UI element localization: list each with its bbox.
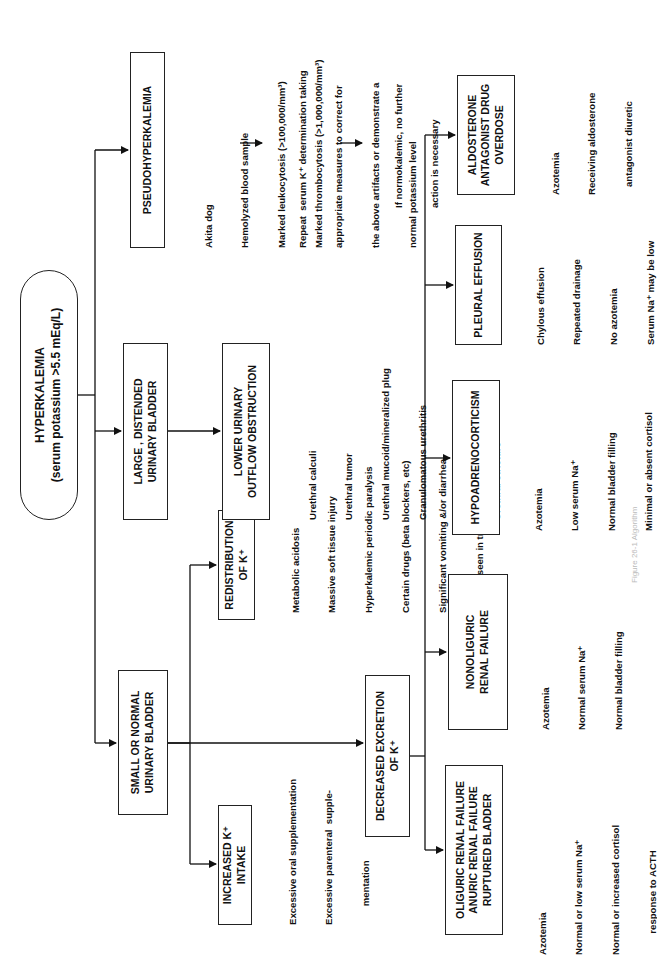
note-line: If normokalemic, no further [393, 84, 405, 208]
cause-item: Urethral mucoid/mineralized plug [380, 368, 392, 520]
label-line: OF K⁺ [388, 740, 402, 771]
label-line: URINARY BLADDER [143, 692, 157, 794]
oliguric-box: OLIGURIC RENAL FAILURE ANURIC RENAL FAIL… [445, 765, 503, 935]
root-title: HYPERKALEMIA [33, 347, 49, 443]
finding-item: No azotemia [608, 241, 620, 345]
label-line: OUTFLOW OBSTRUCTION [246, 365, 260, 498]
hyperkalemia-root: HYPERKALEMIA (serum potassium >5.5 mEq/L… [20, 270, 78, 520]
label-line: URINARY BLADDER [146, 381, 160, 483]
label-line: NONOLIGURIC [464, 615, 478, 690]
label-line: ALDOSTERONE [466, 95, 480, 176]
finding-item: Azotemia [540, 631, 552, 730]
finding-item: Chylous effusion [535, 241, 547, 345]
finding-item: Azotemia [533, 399, 545, 531]
finding-item: response to ACTH [647, 807, 657, 955]
figure-caption: Figure 26-1 Algorithm [630, 507, 639, 583]
label-line: PLEURAL EFFUSION [472, 232, 486, 337]
finding-item: Azotemia [537, 807, 549, 955]
finding-item: Normal serum Na⁺ [576, 631, 588, 730]
cause-item: Excessive oral supplementation [287, 779, 299, 925]
label-line: REDISTRIBUTION [223, 520, 237, 609]
pseudohyperkalemia-box: PSEUDOHYPERKALEMIA [130, 52, 165, 248]
root-subtitle: (serum potassium >5.5 mEq/L) [49, 308, 65, 482]
finding-item: Serum Na⁺ may be low [645, 241, 657, 345]
note-line: appropriate measures to correct for [333, 70, 345, 248]
label-line: ANURIC RENAL FAILURE [467, 786, 481, 914]
cause-item: Urethral calculi [307, 368, 319, 520]
lower-urinary-obstruction-box: LOWER URINARY OUTFLOW OBSTRUCTION [222, 343, 270, 520]
normokalemic-note: If normokalemic, no further action is ne… [368, 84, 466, 208]
cause-item: Hemolyzed blood sample [239, 60, 251, 248]
small-normal-bladder-box: SMALL OR NORMAL URINARY BLADDER [118, 670, 168, 815]
note-line: action is necessary [429, 84, 441, 208]
label-line: LARGE , DISTENDED [132, 378, 146, 484]
finding-item: antagonist diuretic [623, 93, 635, 195]
finding-item: Normal bladder filling [613, 631, 625, 730]
label-line: INTAKE [235, 846, 249, 884]
finding-item: Normal bladder filling [606, 399, 618, 531]
cause-item: Urethral tumor [343, 368, 355, 520]
finding-item: Azotemia [550, 93, 562, 195]
label-line: OLIGURIC RENAL FAILURE [454, 781, 468, 919]
label-line: LOWER URINARY [232, 387, 246, 476]
aldosterone-overdose-box: ALDOSTERONE ANTAGONIST DRUG OVERDOSE [457, 75, 515, 195]
pleural-effusion-box: PLEURAL EFFUSION [455, 225, 502, 345]
label-line: RENAL FAILURE [478, 610, 492, 694]
large-distended-bladder-box: LARGE , DISTENDED URINARY BLADDER [123, 343, 168, 520]
nonoliguric-box: NONOLIGURIC RENAL FAILURE [448, 574, 508, 730]
pleural-findings: Chylous effusion Repeated drainage No az… [510, 241, 657, 345]
increased-intake-box: INCREASED K⁺ INTAKE [218, 805, 252, 925]
finding-item: Repeated drainage [571, 241, 583, 345]
finding-item: Minimal or absent cortisol [643, 399, 655, 531]
cause-item: Granulomatous urethritis [417, 368, 429, 520]
label-line: OVERDOSE [493, 105, 507, 165]
label-line: PSEUDOHYPERKALEMIA [141, 86, 155, 214]
finding-item: Receiving aldosterone [586, 93, 598, 195]
aldosterone-findings: Azotemia Receiving aldosterone antagonis… [525, 93, 657, 195]
oliguric-findings: Azotemia Normal or low serum Na⁺ Normal … [512, 807, 657, 955]
decreased-excretion-box: DECREASED EXCRETION OF K⁺ [365, 675, 410, 837]
label-line: ANTAGONIST DRUG [479, 84, 493, 186]
label-line: SMALL OR NORMAL [129, 691, 143, 795]
label-line: DECREASED EXCRETION [374, 691, 388, 821]
nonoliguric-findings: Azotemia Normal serum Na⁺ Normal bladder… [515, 631, 650, 730]
label-line: OF K⁺ [237, 549, 251, 580]
label-line: RUPTURED BLADDER [481, 794, 495, 907]
finding-item: Normal or low serum Na⁺ [573, 807, 585, 955]
hypoadrenocorticism-box: HYPOADRENOCORTICISM [452, 380, 500, 535]
cause-item: Excessive parenteral supple- [323, 779, 335, 925]
finding-item: Low serum Na⁺ [569, 399, 581, 531]
cause-item: Akita dog [203, 60, 215, 248]
finding-item: Normal or increased cortisol [610, 807, 622, 955]
label-line: HYPOADRENOCORTICISM [469, 390, 483, 524]
label-line: INCREASED K⁺ [221, 826, 235, 904]
flowchart-canvas: HYPERKALEMIA (serum potassium >5.5 mEq/L… [0, 0, 657, 963]
note-line: Repeat serum K⁺ determination taking [297, 70, 309, 248]
redistribution-box: REDISTRIBUTION OF K⁺ [218, 510, 255, 620]
